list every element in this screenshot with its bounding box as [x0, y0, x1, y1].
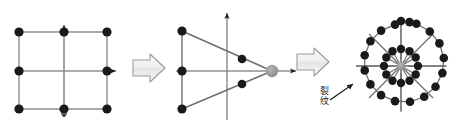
- lattice-axes: [16, 25, 116, 112]
- wedge-node-top-left: [177, 26, 186, 35]
- panel-left-square-lattice: [14, 25, 116, 117]
- crack-annotation-pointer: [330, 84, 353, 100]
- lattice-node-top-left: [14, 27, 23, 36]
- lattice-node-top-middle: [59, 27, 68, 36]
- outer-node-9: [406, 98, 415, 107]
- inner-node-2: [405, 47, 413, 55]
- inner-node-4: [414, 62, 422, 70]
- lattice-node-bottom-middle: [59, 104, 68, 113]
- inner-node-7: [397, 79, 405, 87]
- transition-arrow-1: [133, 54, 165, 82]
- outer-node-5: [440, 54, 449, 63]
- inner-node-12: [388, 47, 396, 55]
- outer-node-10: [391, 97, 400, 106]
- inner-node-10: [380, 62, 388, 70]
- figure-root: 裂 纹: [0, 0, 465, 132]
- inner-node-6: [405, 77, 413, 85]
- block-arrow-icon-2: [297, 48, 329, 76]
- figure-canvas: [0, 0, 465, 132]
- outer-node-3: [426, 27, 435, 36]
- inner-node-11: [382, 53, 390, 61]
- outer-node-13: [360, 66, 369, 75]
- outer-node-8: [420, 93, 429, 102]
- outer-node-18: [405, 18, 414, 27]
- lattice-node-middle-right: [102, 66, 111, 75]
- panel-middle-triangular-wedge: [176, 13, 296, 120]
- outer-node-6: [438, 69, 447, 78]
- wedge-node-inner-upper: [238, 55, 247, 64]
- crack-pointer-head-icon: [347, 84, 354, 90]
- outer-node-16: [377, 26, 386, 35]
- outer-node-7: [431, 82, 440, 91]
- crack-annotation-label: 裂 纹: [318, 86, 330, 106]
- lattice-node-bottom-left: [14, 104, 23, 113]
- inner-node-3: [412, 53, 420, 61]
- inner-node-5: [412, 70, 420, 78]
- wheel-hub-star-icon: [394, 59, 408, 73]
- outer-node-17: [391, 20, 400, 29]
- lattice-node-bottom-right: [102, 104, 111, 113]
- wedge-node-inner-lower: [238, 80, 247, 89]
- wedge-node-bottom-left: [177, 104, 186, 113]
- panel-right-radial-wheel: [356, 17, 448, 112]
- outer-node-12: [366, 80, 375, 89]
- outer-node-15: [366, 37, 375, 46]
- lattice-node-top-right: [102, 27, 111, 36]
- wedge-node-middle-left: [177, 66, 186, 75]
- transition-arrow-2: [297, 48, 329, 76]
- outer-node-11: [377, 91, 386, 100]
- inner-node-9: [382, 70, 390, 78]
- wedge-nodes: [177, 26, 246, 113]
- outer-node-14: [360, 51, 369, 60]
- wedge-focus-node: [266, 65, 278, 77]
- inner-node-1: [397, 45, 405, 53]
- inner-node-8: [388, 77, 396, 85]
- outer-node-4: [435, 39, 444, 48]
- block-arrow-icon-1: [133, 54, 165, 82]
- lattice-node-middle-left: [14, 66, 23, 75]
